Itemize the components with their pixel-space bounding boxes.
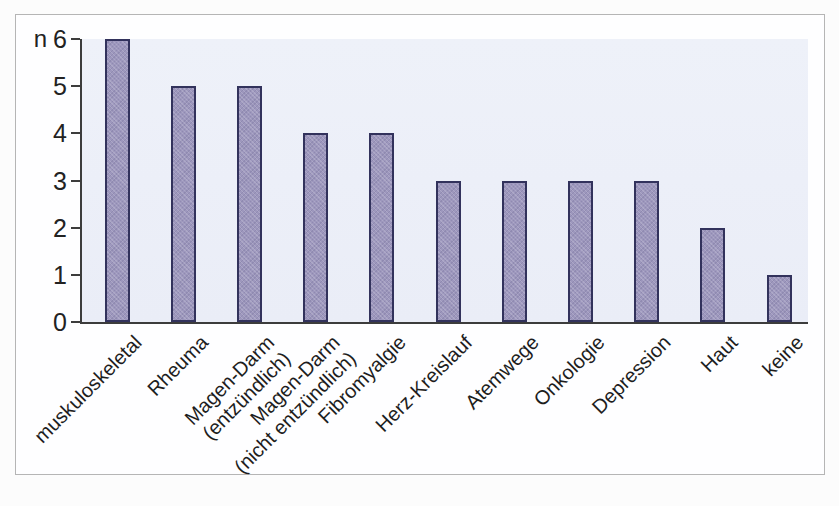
y-tick	[71, 38, 80, 40]
bar	[502, 181, 527, 323]
bar	[634, 181, 659, 323]
y-tick-label: 6	[18, 25, 67, 53]
bar	[767, 275, 792, 322]
y-tick-label: 4	[18, 119, 67, 147]
bar	[700, 228, 725, 322]
bar	[237, 86, 262, 322]
y-tick	[71, 321, 80, 323]
x-axis-line	[80, 322, 808, 324]
y-tick-label: 0	[18, 308, 67, 336]
y-axis-line	[80, 39, 82, 324]
y-tick	[71, 132, 80, 134]
y-tick	[71, 227, 80, 229]
bar	[303, 133, 328, 322]
figure: n 0123456 muskuloskeletalRheumaMagen-Dar…	[0, 0, 839, 506]
bar	[105, 39, 130, 322]
bar	[436, 181, 461, 323]
y-tick-label: 5	[18, 72, 67, 100]
y-tick	[71, 180, 80, 182]
bar	[171, 86, 196, 322]
y-tick-label: 2	[18, 214, 67, 242]
bar	[568, 181, 593, 323]
y-tick	[71, 274, 80, 276]
y-tick	[71, 85, 80, 87]
y-tick-label: 3	[18, 167, 67, 195]
bar	[369, 133, 394, 322]
y-tick-label: 1	[18, 261, 67, 289]
